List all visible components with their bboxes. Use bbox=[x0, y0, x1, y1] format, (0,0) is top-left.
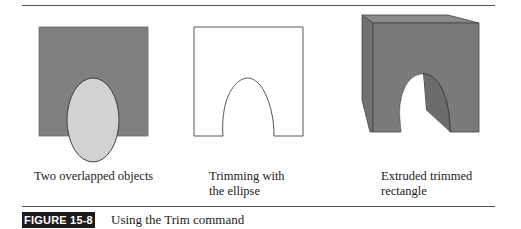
caption-trimmed: Trimming with the ellipse bbox=[209, 169, 285, 199]
trimmed-rectangle-shape bbox=[194, 27, 303, 136]
trimmed-rectangle-drawing bbox=[194, 27, 303, 136]
figure-label: FIGURE 15-8 bbox=[22, 212, 95, 228]
bottom-rule bbox=[22, 206, 495, 207]
top-face bbox=[362, 15, 479, 23]
figure-title: Using the Trim command bbox=[111, 212, 244, 228]
caption-extruded: Extruded trimmed rectangle bbox=[381, 169, 472, 199]
caption-overlapped: Two overlapped objects bbox=[34, 169, 153, 184]
extruded-rectangle-drawing bbox=[362, 15, 479, 132]
ellipse-shape bbox=[67, 78, 119, 162]
overlapped-objects-drawing bbox=[39, 27, 148, 162]
left-face bbox=[362, 15, 373, 132]
